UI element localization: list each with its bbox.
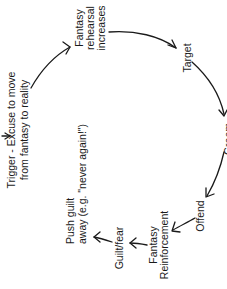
arrow-guilt-to-push-icon (94, 232, 112, 242)
node-groom: Groom (222, 123, 227, 155)
trigger-line-1: Trigger - Excuse to move (5, 71, 17, 188)
node-target: Target (181, 43, 193, 72)
arrow-offend-to-reinforcement-icon (172, 218, 195, 232)
push-guilt-line-2: away (e.g. "never again!") (76, 124, 88, 244)
groom-label: Groom (222, 123, 227, 155)
node-fantasy-rehearsal: Fantasy rehearsal increases (73, 6, 107, 51)
reinforcement-line-2: Reinforcement (158, 211, 170, 279)
trigger-line-2: from fantasy to reality (18, 79, 30, 180)
arrow-trigger-to-rehearsal-icon (31, 42, 70, 88)
node-push-guilt: Push guilt away (e.g. "never again!") (64, 124, 88, 244)
node-fantasy-reinforcement: Fantasy Reinforcement (147, 211, 170, 279)
target-label: Target (181, 43, 193, 72)
arrow-rehearsal-to-target-icon (109, 32, 176, 48)
node-trigger: Trigger - Excuse to move from fantasy to… (5, 71, 30, 188)
guilt-fear-label: Guilt/fear (113, 226, 125, 269)
node-offend: Offend (194, 200, 206, 231)
offend-label: Offend (194, 200, 206, 231)
arrow-target-to-groom-icon (192, 62, 227, 116)
rehearsal-line-3: increases (95, 6, 107, 51)
arrow-reinforcement-to-guilt-icon (130, 238, 147, 248)
node-guilt-fear: Guilt/fear (113, 226, 125, 269)
push-guilt-line-1: Push guilt (64, 198, 76, 244)
arrow-groom-to-offend-icon (206, 152, 224, 197)
offending-cycle-diagram: Trigger - Excuse to move from fantasy to… (0, 0, 227, 289)
